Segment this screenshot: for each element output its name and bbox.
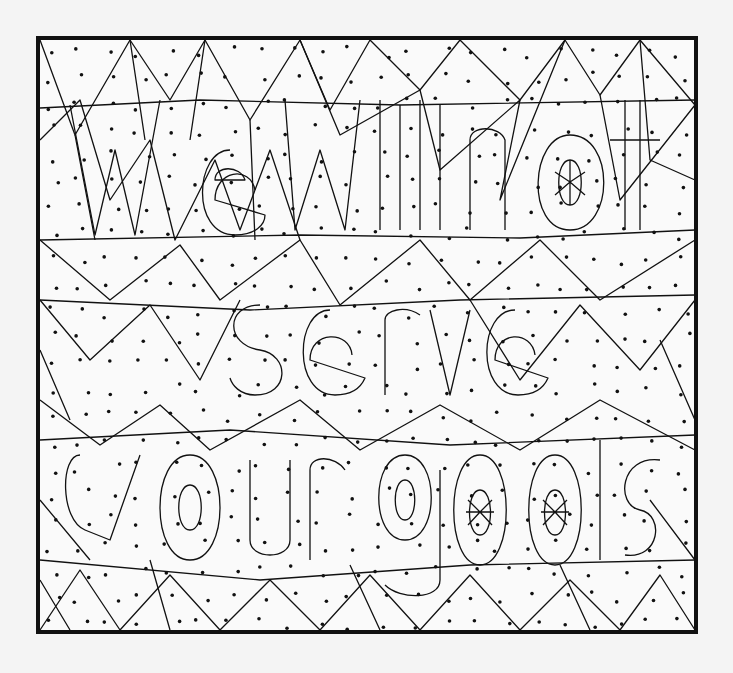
color-by-dot-puzzle	[0, 0, 733, 673]
puzzle-frame	[38, 38, 696, 632]
